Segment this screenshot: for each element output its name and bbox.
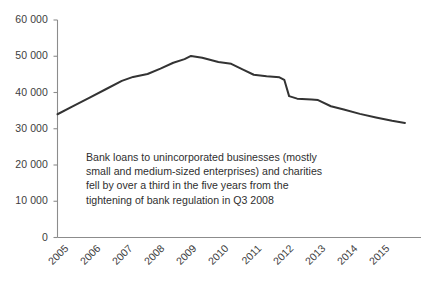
annotation-line-1: Bank loans to unincorporated businesses … (86, 151, 317, 163)
chart-canvas (0, 0, 433, 281)
data-series-line (58, 56, 405, 123)
y-axis-tick-label: 60 000 (0, 13, 48, 25)
y-axis-tick-marks (54, 20, 58, 238)
annotation-line-2: small and medium-sized enterprises) and … (86, 165, 322, 177)
annotation-line-4: tightening of bank regulation in Q3 2008 (86, 194, 274, 206)
y-axis-tick-label: 40 000 (0, 86, 48, 98)
y-axis-tick-label: 50 000 (0, 49, 48, 61)
y-axis-tick-label: 10 000 (0, 194, 48, 206)
y-axis-tick-label: 20 000 (0, 158, 48, 170)
y-axis-tick-label: 30 000 (0, 122, 48, 134)
chart-annotation-text: Bank loans to unincorporated businesses … (86, 150, 361, 207)
annotation-line-3: fell by over a third in the five years f… (86, 179, 289, 191)
line-chart: 010 00020 00030 00040 00050 00060 000 20… (0, 0, 433, 281)
y-axis-tick-label: 0 (0, 231, 48, 243)
